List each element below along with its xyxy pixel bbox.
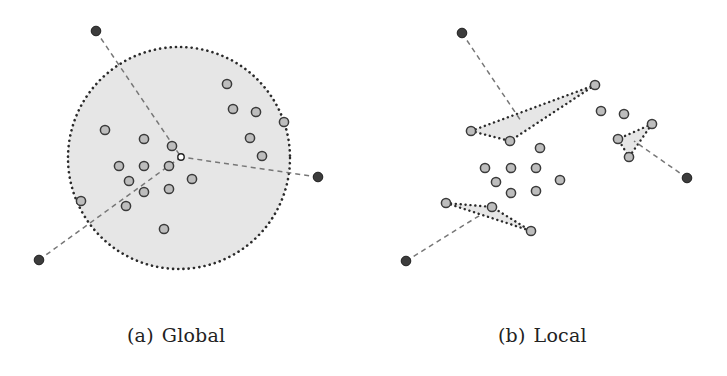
inner-node — [164, 184, 173, 193]
inner-node — [531, 186, 540, 195]
caption-local-text: Local — [534, 324, 587, 346]
inner-node — [245, 133, 254, 142]
inner-node — [505, 136, 514, 145]
inner-node — [487, 202, 496, 211]
outer-node — [457, 28, 467, 38]
caption-global-label: (a) — [127, 324, 154, 346]
inner-node — [491, 177, 500, 186]
caption-global: (a)Global — [127, 324, 225, 346]
inner-node — [167, 141, 176, 150]
inner-node — [590, 80, 599, 89]
inner-node — [159, 224, 168, 233]
local-region-triangle — [471, 85, 595, 141]
caption-local: (b)Local — [498, 324, 587, 346]
inner-node — [164, 161, 173, 170]
inner-node — [251, 107, 260, 116]
inner-node — [139, 134, 148, 143]
outer-node — [401, 256, 411, 266]
inner-node — [222, 79, 231, 88]
inner-node — [279, 117, 288, 126]
inner-node — [613, 134, 622, 143]
center-node — [178, 154, 184, 160]
inner-node — [100, 125, 109, 134]
dashed-link — [634, 141, 687, 178]
inner-node — [187, 174, 196, 183]
inner-node — [506, 188, 515, 197]
outer-node — [91, 26, 101, 36]
inner-node — [121, 201, 130, 210]
inner-node — [526, 226, 535, 235]
inner-node — [257, 151, 266, 160]
inner-node — [555, 175, 564, 184]
inner-node — [506, 163, 515, 172]
caption-local-label: (b) — [498, 324, 526, 346]
inner-node — [531, 163, 540, 172]
inner-node — [624, 152, 633, 161]
dashed-link — [406, 214, 482, 261]
inner-node — [76, 196, 85, 205]
outer-node — [34, 255, 44, 265]
inner-node — [139, 187, 148, 196]
inner-node — [139, 161, 148, 170]
caption-global-text: Global — [162, 324, 225, 346]
panel-local — [401, 28, 692, 266]
inner-node — [466, 126, 475, 135]
figure-canvas — [0, 0, 727, 376]
outer-node — [682, 173, 692, 183]
outer-node — [313, 172, 323, 182]
panel-global — [34, 26, 323, 269]
inner-node — [114, 161, 123, 170]
dashed-link — [462, 33, 521, 121]
inner-node — [596, 106, 605, 115]
inner-node — [619, 109, 628, 118]
inner-node — [228, 104, 237, 113]
inner-node — [535, 143, 544, 152]
inner-node — [480, 163, 489, 172]
inner-node — [647, 119, 656, 128]
inner-node — [441, 198, 450, 207]
inner-node — [124, 176, 133, 185]
